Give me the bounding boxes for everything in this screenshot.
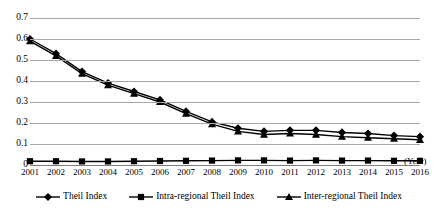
legend-item[interactable]: Inter-regional Theil Index <box>277 191 402 202</box>
data-point-marker-square <box>183 158 189 164</box>
legend-marker-triangle-icon <box>277 192 301 202</box>
series-layer <box>30 18 420 165</box>
y-tick-label: 0.1 <box>2 139 28 149</box>
x-tick-label: 2014 <box>359 167 377 178</box>
gridline-0.7 <box>30 18 420 19</box>
y-tick-label: 0.2 <box>2 118 28 128</box>
data-point-marker-square <box>391 158 397 164</box>
legend-item[interactable]: Intra-regional Theil Index <box>129 191 254 202</box>
x-tick-label: 2008 <box>203 167 221 178</box>
y-axis: 00.10.20.30.40.50.60.7 <box>0 18 28 165</box>
x-tick-label: 2001 <box>21 167 39 178</box>
gridline-0.2 <box>30 123 420 124</box>
x-tick-label: 2012 <box>307 167 325 178</box>
theil-index-line-chart: 00.10.20.30.40.50.60.7 20012002200320042… <box>0 0 438 217</box>
plot-area <box>30 18 420 165</box>
series-square <box>27 157 423 164</box>
data-point-marker-square <box>105 158 111 164</box>
data-point-marker-square <box>287 157 293 163</box>
x-tick-label: 2011 <box>281 167 299 178</box>
chart-legend: Theil IndexIntra-regional Theil IndexInt… <box>0 191 438 202</box>
series-diamond <box>26 35 424 141</box>
data-point-marker-square <box>365 157 371 163</box>
x-tick-label: 2009 <box>229 167 247 178</box>
x-tick-label: 2013 <box>333 167 351 178</box>
y-tick-label: 0.6 <box>2 34 28 44</box>
data-point-marker-square <box>138 193 144 199</box>
legend-marker-square-icon <box>129 192 153 202</box>
data-point-marker-square <box>261 157 267 163</box>
data-point-marker-square <box>235 157 241 163</box>
x-tick-label: 2002 <box>47 167 65 178</box>
series-line <box>30 39 420 137</box>
data-point-marker-square <box>339 157 345 163</box>
legend-label: Intra-regional Theil Index <box>156 191 254 202</box>
data-point-marker-square <box>79 158 85 164</box>
x-tick-label: 2010 <box>255 167 273 178</box>
y-tick-label: 0.7 <box>2 13 28 23</box>
series-line <box>30 160 420 161</box>
data-point-marker-square <box>53 158 59 164</box>
legend-marker-diamond-icon <box>36 192 60 202</box>
gridline-0 <box>30 165 420 166</box>
series-triangle <box>26 37 424 143</box>
data-point-marker-square <box>131 158 137 164</box>
x-tick-label: 2016 <box>411 167 429 178</box>
x-tick-label: 2006 <box>151 167 169 178</box>
x-tick-label: 2004 <box>99 167 117 178</box>
y-tick-label: 0.4 <box>2 76 28 86</box>
y-tick-label: 0.5 <box>2 55 28 65</box>
x-tick-label: 2007 <box>177 167 195 178</box>
x-axis-title: (Year) <box>404 156 427 167</box>
legend-label: Inter-regional Theil Index <box>304 191 402 202</box>
data-point-marker-square <box>157 158 163 164</box>
gridline-0.3 <box>30 102 420 103</box>
x-axis: 2001200220032004200520062007200820092010… <box>30 167 420 181</box>
gridline-0.5 <box>30 60 420 61</box>
legend-label: Theil Index <box>63 191 107 202</box>
gridline-0.1 <box>30 144 420 145</box>
x-tick-label: 2003 <box>73 167 91 178</box>
x-tick-label: 2005 <box>125 167 143 178</box>
data-point-marker-square <box>313 157 319 163</box>
gridline-0.4 <box>30 81 420 82</box>
legend-item[interactable]: Theil Index <box>36 191 107 202</box>
gridline-0.6 <box>30 39 420 40</box>
y-tick-label: 0.3 <box>2 97 28 107</box>
x-tick-label: 2015 <box>385 167 403 178</box>
data-point-marker-square <box>209 157 215 163</box>
data-point-marker-diamond <box>44 192 52 200</box>
data-point-marker-square <box>27 158 33 164</box>
